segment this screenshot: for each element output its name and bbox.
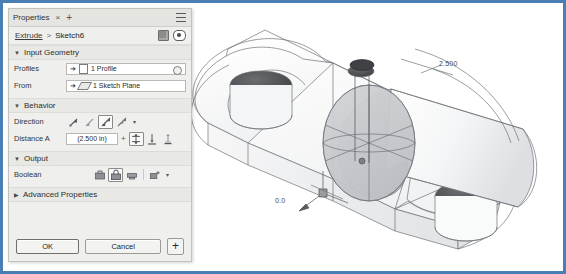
expression-plus-icon[interactable]: + — [121, 135, 126, 143]
profiles-input[interactable]: ➔ 1 Profile — [66, 63, 186, 75]
divider — [143, 169, 144, 180]
from-value: 1 Sketch Plane — [93, 82, 140, 89]
section-label-advanced-properties: Advanced Properties — [23, 190, 97, 199]
boolean-more-icon[interactable]: ▾ — [166, 171, 169, 178]
label-from: From — [14, 81, 66, 90]
close-icon[interactable]: × — [52, 13, 63, 22]
chevron-right-icon: ▶ — [14, 192, 19, 198]
distance-a-input[interactable]: (2.500 in) — [66, 133, 118, 145]
chevron-down-icon: ▼ — [14, 156, 20, 162]
section-label-behavior: Behavior — [24, 101, 56, 110]
profiles-value: 1 Profile — [91, 65, 117, 72]
application-window: 2.500 0.0 Properties × + Extrude > Sketc… — [0, 0, 566, 274]
extent-to-next-button[interactable] — [145, 132, 160, 146]
sketch-plane-icon — [77, 82, 92, 90]
clear-selection-icon[interactable] — [173, 66, 182, 75]
add-tab-icon[interactable]: + — [63, 13, 75, 23]
hamburger-menu-icon[interactable] — [176, 13, 186, 22]
extent-to-object-button[interactable] — [161, 132, 176, 146]
boolean-cut-button[interactable] — [108, 168, 123, 182]
boolean-intersect-button[interactable] — [124, 168, 139, 182]
visibility-eye-icon[interactable] — [173, 30, 186, 41]
panel-footer: OK Cancel + — [9, 231, 191, 261]
row-distance-a: Distance A (2.500 in) + — [9, 130, 191, 147]
direction-symmetric-button[interactable] — [98, 115, 113, 129]
distance-a-value: (2.500 in) — [77, 135, 107, 142]
apply-add-button[interactable]: + — [167, 238, 184, 255]
dimension-label-distance[interactable]: 2.500 — [439, 60, 458, 67]
section-label-output: Output — [24, 154, 48, 163]
solid-body-icon[interactable] — [158, 30, 169, 41]
label-boolean: Boolean — [14, 170, 66, 179]
row-from: From ➔ 1 Sketch Plane — [9, 77, 191, 94]
properties-panel: Properties × + Extrude > Sketch6 ▼ Input… — [8, 8, 192, 262]
dimension-label-origin[interactable]: 0.0 — [275, 197, 285, 204]
panel-body: ▼ Input Geometry Profiles ➔ 1 Profile Fr… — [9, 45, 191, 231]
section-label-input-geometry: Input Geometry — [24, 48, 79, 57]
breadcrumb-current[interactable]: Sketch6 — [55, 31, 84, 40]
boolean-new-solid-button[interactable] — [147, 168, 162, 182]
from-input[interactable]: ➔ 1 Sketch Plane — [66, 80, 186, 92]
section-header-behavior[interactable]: ▼ Behavior — [9, 98, 191, 113]
section-header-advanced-properties[interactable]: ▶ Advanced Properties — [9, 187, 191, 202]
selection-cursor-icon: ➔ — [70, 82, 76, 89]
breadcrumb-icons — [158, 30, 186, 41]
selection-cursor-icon: ➔ — [70, 65, 76, 72]
right-hole-wall — [435, 196, 497, 241]
boolean-join-button[interactable] — [92, 168, 107, 182]
direction-flipped-button[interactable] — [82, 115, 97, 129]
direction-more-icon[interactable]: ▾ — [133, 118, 136, 125]
section-header-output[interactable]: ▼ Output — [9, 151, 191, 166]
label-distance-a: Distance A — [14, 134, 66, 143]
row-profiles: Profiles ➔ 1 Profile — [9, 60, 191, 77]
panel-tab-bar: Properties × + — [9, 9, 191, 27]
section-header-input-geometry[interactable]: ▼ Input Geometry — [9, 45, 191, 60]
label-direction: Direction — [14, 117, 66, 126]
breadcrumb-parent[interactable]: Extrude — [15, 31, 43, 40]
row-direction: Direction — [9, 113, 191, 130]
chevron-down-icon: ▼ — [14, 103, 20, 109]
cancel-button[interactable]: Cancel — [85, 239, 161, 254]
profile-sheet-icon — [79, 64, 88, 74]
tab-properties[interactable]: Properties — [13, 13, 52, 22]
extent-distance-button[interactable] — [129, 132, 144, 146]
breadcrumb-separator: > — [47, 31, 52, 40]
breadcrumb: Extrude > Sketch6 — [9, 27, 191, 45]
ok-button[interactable]: OK — [16, 239, 79, 254]
direction-default-button[interactable] — [66, 115, 81, 129]
direction-asymmetric-button[interactable] — [114, 115, 129, 129]
row-boolean: Boolean — [9, 166, 191, 183]
chevron-down-icon: ▼ — [14, 50, 20, 56]
manipulator-origin-node — [359, 158, 365, 164]
label-profiles: Profiles — [14, 64, 66, 73]
left-hole-wall — [230, 85, 292, 129]
manipulator-handle — [350, 60, 374, 71]
